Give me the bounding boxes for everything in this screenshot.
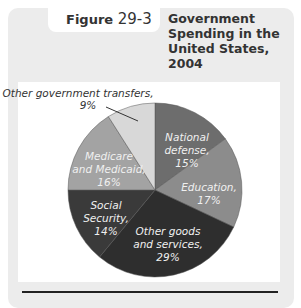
svg-text:National: National (165, 131, 209, 143)
svg-text:Security,: Security, (83, 212, 129, 224)
svg-text:Medicare: Medicare (85, 150, 133, 162)
svg-text:16%: 16% (97, 176, 120, 188)
svg-text:9%: 9% (80, 99, 97, 111)
svg-text:17%: 17% (197, 194, 220, 206)
svg-text:defense,: defense, (164, 144, 209, 156)
svg-text:29%: 29% (156, 251, 179, 263)
svg-text:Education,: Education, (181, 181, 237, 193)
svg-text:Social: Social (90, 199, 121, 211)
svg-text:Other government transfers,: Other government transfers, (3, 87, 154, 99)
svg-text:Other goods: Other goods (136, 225, 201, 237)
svg-text:14%: 14% (94, 225, 117, 237)
svg-text:15%: 15% (175, 157, 198, 169)
svg-text:and services,: and services, (133, 238, 203, 250)
svg-text:and Medicaid,: and Medicaid, (72, 163, 145, 175)
